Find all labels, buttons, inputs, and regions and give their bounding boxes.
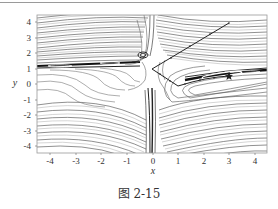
y-axis: 4 3 2 1 0 -1 -2 -3 -4 y [12,17,37,151]
y-tick-label: 4 [27,17,32,27]
y-tick-label: -4 [24,141,32,151]
x-tick-label: 1 [176,156,181,166]
x-tick-label: -4 [46,156,54,166]
contour-lines [37,13,267,156]
x-tick-label: -2 [97,156,105,166]
contour-chart: 4 3 2 1 0 -1 -2 -3 -4 y -4 -3 -2 -1 0 1 … [0,0,278,209]
figure-caption: 图 2-15 [0,184,278,201]
y-tick-label: 0 [27,79,32,89]
x-axis: -4 -3 -2 -1 0 1 2 3 4 x [46,153,258,176]
x-tick-label: 3 [227,156,232,166]
y-tick-label: 2 [27,48,32,58]
y-axis-label: y [12,77,18,88]
y-tick-label: -1 [24,95,32,105]
y-tick-label: -3 [24,126,32,136]
x-tick-label: -3 [72,156,80,166]
y-tick-label: -2 [24,110,32,120]
y-tick-label: 1 [27,64,32,74]
y-tick-label: 3 [27,33,32,43]
x-tick-label: 4 [253,156,258,166]
x-tick-label: 2 [202,156,207,166]
x-tick-label: -1 [123,156,131,166]
x-axis-label: x [150,165,156,176]
